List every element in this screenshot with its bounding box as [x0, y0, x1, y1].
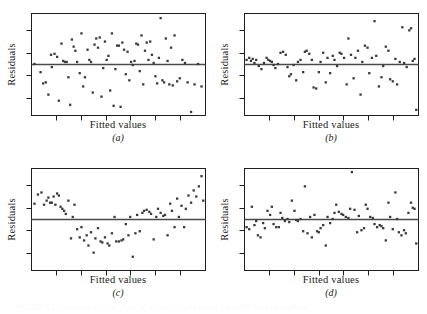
data-point	[389, 78, 391, 80]
panel-c-y-axis-title: Residuals	[4, 168, 18, 270]
data-point	[269, 214, 271, 216]
data-point	[159, 17, 161, 19]
data-point	[378, 85, 380, 87]
data-point	[53, 53, 55, 55]
data-point	[79, 236, 81, 238]
data-point	[332, 218, 334, 220]
data-point	[399, 61, 401, 63]
data-point	[45, 81, 47, 83]
data-point	[195, 195, 197, 197]
data-point	[281, 217, 283, 219]
data-point	[202, 199, 204, 201]
data-point	[282, 51, 284, 53]
data-point	[47, 196, 49, 198]
data-point	[73, 204, 75, 206]
data-point	[119, 106, 121, 108]
data-point	[313, 214, 315, 216]
data-point	[285, 54, 287, 56]
data-point	[50, 54, 52, 56]
data-point	[118, 240, 120, 242]
y-axis-ticks	[240, 31, 245, 99]
data-point	[410, 27, 412, 29]
data-point	[51, 66, 53, 68]
data-point	[114, 68, 116, 70]
data-point	[101, 241, 103, 243]
data-point	[380, 76, 382, 78]
data-point	[74, 50, 76, 52]
data-point	[322, 224, 324, 226]
data-point	[360, 229, 362, 231]
data-point	[412, 60, 414, 62]
data-point	[253, 62, 255, 64]
data-point	[309, 216, 311, 218]
data-point	[262, 222, 264, 224]
data-point	[39, 71, 41, 73]
data-point	[398, 231, 400, 233]
data-point	[172, 84, 174, 86]
data-point	[369, 216, 371, 218]
data-point	[164, 214, 166, 216]
data-point	[69, 104, 71, 106]
data-point	[173, 226, 175, 228]
data-point	[380, 225, 382, 227]
data-point	[190, 202, 192, 204]
data-point	[322, 52, 324, 54]
data-point	[106, 242, 108, 244]
data-point	[54, 204, 56, 206]
data-point	[353, 209, 355, 211]
data-point	[403, 229, 405, 231]
data-point	[248, 228, 250, 230]
data-point	[80, 32, 82, 34]
data-point	[173, 34, 175, 36]
data-point	[392, 80, 394, 82]
data-point	[291, 199, 293, 201]
data-point	[58, 194, 60, 196]
data-point	[318, 231, 320, 233]
data-point	[410, 202, 412, 204]
data-point	[132, 64, 134, 66]
data-point	[100, 95, 102, 97]
data-point	[365, 204, 367, 206]
data-point	[406, 66, 408, 68]
data-point	[43, 204, 45, 206]
data-point	[278, 226, 280, 228]
data-point	[37, 193, 39, 195]
data-point	[147, 59, 149, 61]
data-point	[90, 231, 92, 233]
figure-caption: FIGURE 4.2 Patterns for residual plots. …	[16, 303, 416, 312]
data-point	[42, 82, 44, 84]
data-point	[153, 62, 155, 64]
data-point	[153, 238, 155, 240]
data-point	[245, 226, 247, 228]
data-point	[318, 71, 320, 73]
data-point	[351, 171, 353, 173]
data-point	[266, 210, 268, 212]
data-point	[193, 83, 195, 85]
data-point	[251, 206, 253, 208]
data-point	[95, 37, 97, 39]
data-point	[111, 32, 113, 34]
data-point	[122, 238, 124, 240]
data-point	[286, 66, 288, 68]
data-point	[33, 63, 35, 65]
data-point	[60, 42, 62, 44]
data-point	[125, 223, 127, 225]
data-point	[297, 220, 299, 222]
data-point	[52, 195, 54, 197]
data-point	[136, 214, 138, 216]
data-point	[94, 237, 96, 239]
data-point	[389, 216, 391, 218]
data-point	[415, 109, 417, 111]
data-point	[271, 206, 273, 208]
data-point	[259, 236, 261, 238]
data-point	[255, 220, 257, 222]
data-point	[354, 57, 356, 59]
data-point	[255, 59, 257, 61]
data-point	[387, 202, 389, 204]
data-point	[76, 228, 78, 230]
data-point	[250, 60, 252, 62]
data-point	[342, 214, 344, 216]
data-point	[299, 218, 301, 220]
data-point	[51, 202, 53, 204]
panel-d-y-axis-title: Residuals	[217, 168, 231, 270]
